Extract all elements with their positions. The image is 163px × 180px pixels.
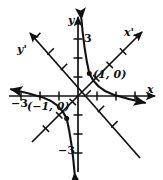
x-tick-label-negative-3: −3 (11, 98, 28, 109)
point-label-vertex-right: (1, 0) (93, 69, 126, 80)
y-tick-label-negative-3: −3 (58, 145, 75, 156)
point-label-vertex-left: (−1, 0) (27, 101, 70, 112)
x-prime-axis-label: x' (124, 27, 134, 38)
graph-canvas (0, 0, 163, 180)
x-axis-label: x (147, 84, 154, 95)
x-prime-axis-line (32, 32, 142, 142)
y-prime-axis-label: y' (17, 44, 27, 55)
axis-x-prime (32, 32, 142, 142)
vertex-left-dot (64, 116, 69, 121)
vertex-right-dot (87, 71, 92, 76)
hyperbola-rotated-axes-figure: x y x' y' 3 −3 −3 (1, 0) (−1, 0) (0, 0, 163, 180)
y-axis-label: y (68, 15, 74, 26)
y-tick-label-positive-3: 3 (84, 33, 92, 44)
